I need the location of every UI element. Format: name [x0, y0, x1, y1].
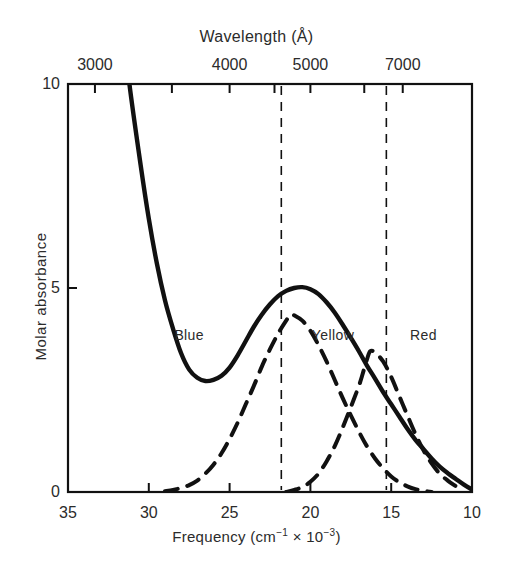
region-label-yellow: Yellow — [312, 327, 354, 343]
absorbance-spectrum-figure: Wavelength (Å) 3530252015100510300040005… — [0, 0, 513, 580]
top-tick-label-5000: 5000 — [293, 56, 329, 74]
top-tick-label-3000: 3000 — [77, 56, 113, 74]
region-label-red: Red — [410, 327, 437, 343]
y-axis-title: Molar absorbance — [32, 167, 49, 427]
x-axis-title-sup2: −3 — [323, 527, 335, 538]
top-tick-label-4000: 4000 — [212, 56, 248, 74]
x-tick-label-35: 35 — [59, 504, 77, 522]
x-axis-title-tail: ) — [335, 528, 340, 545]
x-axis-title: Frequency (cm−1 × 10−3) — [0, 528, 513, 545]
top-axis-ticks — [95, 84, 403, 93]
y-tick-label-10: 10 — [42, 75, 60, 93]
y-tick-label-0: 0 — [51, 483, 60, 501]
bottom-axis-ticks — [149, 483, 391, 492]
x-tick-label-25: 25 — [221, 504, 239, 522]
x-tick-label-10: 10 — [463, 504, 481, 522]
x-axis-title-lead: Frequency (cm — [172, 528, 276, 545]
y-tick-label-5: 5 — [51, 279, 60, 297]
plot-canvas — [0, 0, 513, 580]
x-tick-label-15: 15 — [382, 504, 400, 522]
region-label-blue: Blue — [174, 327, 204, 343]
x-tick-label-20: 20 — [301, 504, 319, 522]
x-tick-label-30: 30 — [140, 504, 158, 522]
series-component-band-2 — [286, 351, 464, 492]
top-tick-label-7000: 7000 — [385, 56, 421, 74]
x-axis-title-mid: × 10 — [288, 528, 323, 545]
x-axis-title-sup1: −1 — [276, 527, 288, 538]
